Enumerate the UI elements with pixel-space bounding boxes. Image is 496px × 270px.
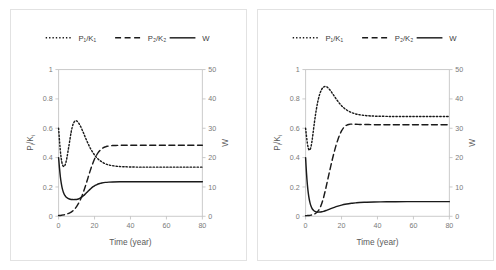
ytick-label-right: 20 — [455, 154, 463, 162]
x-axis-title: Time (year) — [356, 237, 398, 247]
ytick-label-left: 0.6 — [290, 125, 300, 133]
ytick-label-left: 0 — [296, 213, 300, 221]
plot-frame — [306, 70, 450, 217]
xtick-label: 40 — [374, 222, 382, 230]
xtick-label: 60 — [409, 222, 417, 230]
ytick-label-right: 30 — [455, 125, 463, 133]
ytick-label-left: 1 — [296, 66, 300, 74]
ytick-label-right: 50 — [455, 66, 463, 74]
ytick-label-right: 50 — [208, 66, 216, 74]
plot-frame — [59, 70, 203, 217]
right-panel: P₁/K₁P₂/K₂W00.20.40.60.81010203040500204… — [257, 9, 494, 261]
right-panel-legend: P₁/K₁P₂/K₂W — [293, 34, 458, 43]
y2-axis-title: W — [220, 139, 230, 147]
xtick-label: 20 — [91, 222, 99, 230]
xtick-label: 0 — [304, 222, 308, 230]
right-panel-plot: P₁/K₁P₂/K₂W00.20.40.60.81010203040500204… — [258, 10, 493, 260]
xtick-label: 80 — [198, 222, 206, 230]
legend-label-P1K1: P₁/K₁ — [325, 34, 343, 43]
ytick-label-right: 10 — [455, 184, 463, 192]
legend-label-W: W — [202, 34, 210, 43]
series-P1K1 — [59, 121, 203, 167]
left-panel-legend: P₁/K₁P₂/K₂W — [46, 34, 211, 43]
ytick-label-left: 0 — [49, 213, 53, 221]
ytick-label-left: 1 — [49, 66, 53, 74]
ytick-label-left: 0.4 — [43, 154, 53, 162]
ytick-label-right: 0 — [455, 213, 459, 221]
xtick-label: 20 — [338, 222, 346, 230]
left-panel: P₁/K₁P₂/K₂W00.20.40.60.81010203040500204… — [10, 9, 247, 261]
ytick-label-right: 0 — [208, 213, 212, 221]
legend-label-P2K2: P₂/K₂ — [395, 34, 413, 43]
series-W — [59, 158, 203, 200]
x-axis-title: Time (year) — [109, 237, 151, 247]
xtick-label: 40 — [127, 222, 135, 230]
right-panel-axes: 00.20.40.60.8101020304050020406080 — [290, 66, 464, 230]
ytick-label-right: 10 — [208, 184, 216, 192]
legend-label-W: W — [449, 34, 457, 43]
ytick-label-left: 0.8 — [43, 95, 53, 103]
ytick-label-right: 40 — [455, 95, 463, 103]
xtick-label: 0 — [57, 222, 61, 230]
legend-label-P1K1: P₁/K₁ — [78, 34, 96, 43]
y-axis-title: Pi/Ki — [272, 135, 283, 151]
ytick-label-left: 0.8 — [290, 95, 300, 103]
ytick-label-left: 0.4 — [290, 154, 300, 162]
y2-axis-title: W — [467, 139, 477, 147]
y-axis-title: Pi/Ki — [25, 135, 36, 151]
xtick-label: 60 — [162, 222, 170, 230]
ytick-label-right: 20 — [208, 154, 216, 162]
right-panel-series — [306, 86, 450, 215]
ytick-label-left: 0.2 — [43, 184, 53, 192]
left-panel-plot: P₁/K₁P₂/K₂W00.20.40.60.81010203040500204… — [11, 10, 246, 260]
ytick-label-left: 0.6 — [43, 125, 53, 133]
series-P1K1 — [306, 86, 450, 150]
left-panel-series — [59, 121, 203, 216]
xtick-label: 80 — [445, 222, 453, 230]
ytick-label-right: 40 — [208, 95, 216, 103]
figure-container: P₁/K₁P₂/K₂W00.20.40.60.81010203040500204… — [0, 0, 496, 270]
series-P2K2 — [59, 145, 203, 215]
ytick-label-right: 30 — [208, 125, 216, 133]
ytick-label-left: 0.2 — [290, 184, 300, 192]
legend-label-P2K2: P₂/K₂ — [148, 34, 166, 43]
